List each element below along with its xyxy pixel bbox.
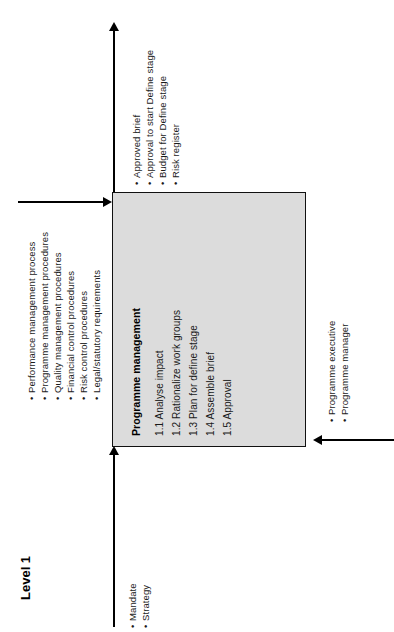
control-item-2: Programme management procedures [40, 232, 50, 400]
input-item-1: Mandate [128, 583, 138, 628]
process-step-3: 1.3 Plan for define stage [189, 325, 199, 436]
control-item-6: Legal/statutory requirements [92, 270, 102, 400]
output-item-3: Budget for Define stage [158, 76, 168, 185]
process-step-5: 1.5 Approval [223, 379, 233, 436]
output-item-4: Risk register [171, 124, 181, 185]
mechanism-item-1: Programme executive [327, 321, 337, 422]
control-item-1: Performance management process [27, 242, 37, 400]
output-arrow-head [109, 22, 119, 31]
output-arrow-line [113, 30, 115, 192]
diagram-canvas: Level 1 Programme management 1.1 Analyse… [0, 0, 394, 632]
process-step-2: 1.2 Rationalize work groups [172, 310, 182, 436]
process-step-4: 1.4 Assemble brief [206, 352, 216, 436]
control-item-4: Financial control procedures [66, 271, 76, 400]
input-arrow-line [113, 455, 115, 627]
process-step-1: 1.1 Analyse impact [155, 350, 165, 436]
control-item-5: Risk control procedures [79, 291, 89, 400]
output-item-2: Approval to start Define stage [145, 50, 155, 185]
process-box-title: Programme management [131, 308, 142, 436]
control-arrow-line [18, 201, 104, 203]
mechanism-arrow-head [313, 435, 322, 445]
level-label: Level 1 [18, 556, 33, 600]
mechanism-arrow-line [322, 439, 394, 441]
control-item-3: Quality management procedures [53, 252, 63, 400]
output-item-1: Approved brief [132, 115, 142, 185]
mechanism-item-2: Programme manager [340, 324, 350, 422]
input-item-2: Strategy [141, 585, 151, 628]
control-arrow-head [103, 197, 112, 207]
input-arrow-head [109, 446, 119, 455]
